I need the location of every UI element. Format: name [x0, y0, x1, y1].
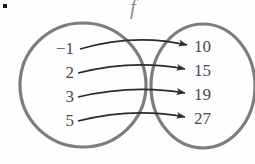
domain-value-1: −1: [28, 40, 74, 57]
diagram-canvas: [0, 0, 255, 164]
mapping-diagram-figure: f −1 2 3 5 10 15 19 27: [0, 0, 255, 164]
range-value-2: 15: [194, 62, 240, 79]
range-value-3: 19: [194, 86, 240, 103]
arrow-2-to-15: [78, 65, 185, 73]
range-value-4: 27: [194, 110, 240, 127]
domain-value-4: 5: [28, 112, 74, 129]
domain-value-3: 3: [28, 88, 74, 105]
arrow-3-to-19: [78, 89, 185, 97]
domain-value-2: 2: [28, 64, 74, 81]
range-value-1: 10: [194, 38, 240, 55]
arrow-5-to-27: [78, 113, 185, 121]
